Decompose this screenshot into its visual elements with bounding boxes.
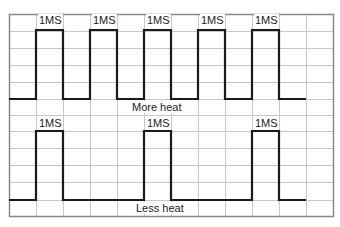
pulse-label: 1MS: [254, 117, 279, 129]
less-heat-caption: Less heat: [135, 202, 185, 214]
pulse-label: 1MS: [146, 117, 171, 129]
pulse-label: 1MS: [38, 14, 63, 26]
pulse-label: 1MS: [254, 14, 279, 26]
more-heat-caption: More heat: [131, 101, 183, 113]
pulse-label: 1MS: [146, 14, 171, 26]
pulse-label: 1MS: [200, 14, 225, 26]
pulse-label: 1MS: [92, 14, 117, 26]
more-heat-waveform: [9, 30, 306, 99]
pwm-diagram: [0, 0, 340, 227]
pulse-label: 1MS: [38, 117, 63, 129]
